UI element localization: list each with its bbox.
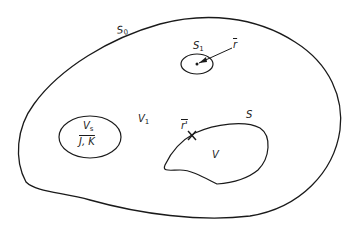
diagram-canvas: S0 S1 r Vs J, K V1 S r' V bbox=[0, 0, 356, 229]
pointer-arrowhead-icon bbox=[199, 57, 207, 63]
label-v1-base: V bbox=[138, 113, 145, 124]
surface-point-cross-icon bbox=[188, 131, 196, 140]
label-vs-base: V bbox=[83, 120, 90, 131]
label-j-k: J, K bbox=[79, 137, 95, 147]
label-v1-sub: 1 bbox=[145, 118, 149, 126]
label-s0-sub: 0 bbox=[123, 28, 129, 37]
label-s0: S0 bbox=[116, 24, 128, 37]
label-vs-sub: s bbox=[90, 125, 94, 133]
label-s1-sub: 1 bbox=[199, 45, 203, 53]
field-point-dot bbox=[196, 63, 199, 66]
label-v: V bbox=[212, 150, 219, 160]
label-vs: Vs bbox=[83, 121, 94, 133]
outer-surface-s0 bbox=[18, 18, 340, 218]
label-s1: S1 bbox=[193, 41, 204, 53]
label-s: S bbox=[246, 110, 252, 120]
label-field-point-r: r bbox=[233, 40, 237, 50]
label-r-prime: r' bbox=[181, 121, 188, 131]
label-v1: V1 bbox=[138, 114, 149, 126]
diagram-drawing bbox=[0, 0, 356, 229]
